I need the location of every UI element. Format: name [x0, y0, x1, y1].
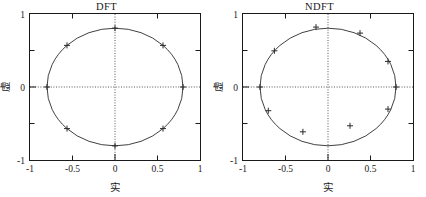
panel-ndft: NDFT [213, 0, 426, 197]
data-marker [44, 84, 50, 90]
data-marker [180, 84, 186, 90]
plot-area-dft: -1 -0.5 0 0.5 1 1 0 -1 实 虚 [0, 0, 213, 197]
ytick-label: 1 [233, 10, 238, 20]
ytick-label: -1 [230, 156, 238, 166]
xtick-label: 1 [198, 164, 203, 174]
data-marker [300, 129, 306, 135]
xtick-label: 0 [113, 164, 118, 174]
xtick-label: -0.5 [65, 164, 80, 174]
ytick-label: -1 [17, 156, 25, 166]
ytick-label: 0 [233, 83, 238, 93]
xtick-label: 0 [326, 164, 331, 174]
yaxis-label: 虚 [0, 82, 11, 92]
xaxis-label: 实 [323, 181, 333, 193]
ytick-label: 1 [20, 10, 25, 20]
data-marker [357, 30, 363, 36]
data-marker [112, 143, 118, 149]
figure-root: DFT [0, 0, 426, 197]
xtick-label: -0.5 [278, 164, 293, 174]
data-marker [112, 25, 118, 31]
xtick-label: 1 [411, 164, 416, 174]
plot-area-ndft: -1 -0.5 0 0.5 1 1 0 -1 实 虚 [213, 0, 426, 197]
xaxis-label: 实 [110, 181, 120, 193]
data-marker [347, 123, 353, 129]
xtick-label: -1 [239, 164, 247, 174]
xtick-label: 0.5 [365, 164, 377, 174]
xtick-label: -1 [26, 164, 34, 174]
yaxis-label: 虚 [213, 82, 224, 92]
xtick-label: 0.5 [152, 164, 164, 174]
panel-dft: DFT [0, 0, 213, 197]
ytick-label: 0 [20, 83, 25, 93]
data-marker [257, 84, 263, 90]
data-marker [393, 84, 399, 90]
